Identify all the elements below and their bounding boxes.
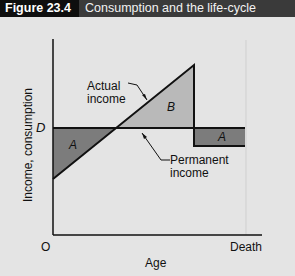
region-a-right-label: A bbox=[218, 130, 226, 144]
y-axis-label: Income, consumption bbox=[21, 80, 35, 210]
level-d-label: D bbox=[36, 120, 45, 135]
actual-income-arrow bbox=[142, 94, 147, 100]
actual-income-label: Actual income bbox=[87, 80, 126, 106]
origin-label: O bbox=[41, 240, 50, 254]
permanent-income-arrow bbox=[142, 133, 147, 139]
actual-income-label-line2: income bbox=[87, 93, 126, 106]
permanent-income-label-line2: income bbox=[170, 167, 229, 180]
actual-income-leader bbox=[128, 83, 147, 100]
region-b-label: B bbox=[167, 100, 175, 114]
death-label: Death bbox=[230, 240, 262, 254]
x-axis-label: Age bbox=[145, 256, 166, 270]
region-a-left-label: A bbox=[69, 138, 77, 152]
life-cycle-diagram bbox=[0, 0, 295, 276]
permanent-income-label: Permanent income bbox=[170, 154, 229, 180]
